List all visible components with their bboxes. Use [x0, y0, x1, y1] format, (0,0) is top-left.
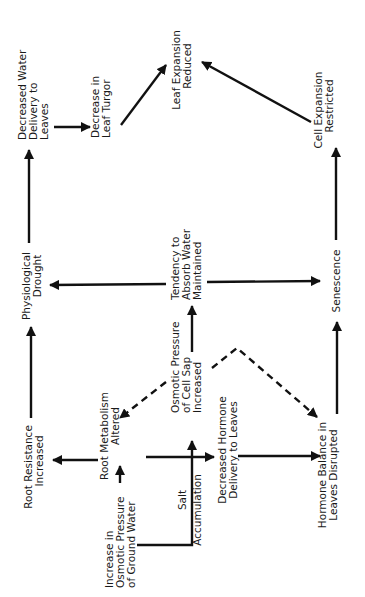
node-leaf-expansion-reduced: Leaf Expansion Reduced [170, 30, 193, 110]
node-osmotic-pressure-cell-sap: Osmotic Pressure of Cell Sap Increased [169, 322, 203, 413]
node-root-resistance-increased: Root Resistance Increased [22, 425, 45, 509]
svg-text:Delivery to Leaves: Delivery to Leaves [227, 401, 239, 499]
edge-tendency-to-drought [50, 284, 166, 285]
node-senescence: Senescence [330, 250, 342, 313]
svg-text:Senescence: Senescence [330, 250, 342, 313]
edge-turgor-to-leaf-expansion [121, 65, 166, 125]
svg-text:Reduced: Reduced [181, 43, 193, 89]
svg-text:Salt: Salt [176, 490, 188, 510]
node-hormone-balance-disrupted: Hormone Balance in Leaves Disrupted [316, 422, 339, 528]
node-decrease-leaf-turgor: Decrease in Leaf Turgor [89, 76, 112, 138]
node-decreased-water-delivery: Decreased Water Delivery to Leaves [16, 49, 50, 140]
svg-text:Restricted: Restricted [323, 79, 335, 132]
node-physiological-drought: Physiological Drought [20, 252, 43, 320]
edge-cell-expansion-to-leaf-expansion [202, 62, 311, 122]
edge-tendency-to-senescence [207, 281, 320, 282]
svg-text:Leaves: Leaves [38, 103, 50, 140]
svg-text:Drought: Drought [31, 255, 43, 298]
edge-cell-sap-to-root-metabolism-dashed [120, 382, 166, 418]
svg-text:of Ground Water: of Ground Water [125, 501, 137, 588]
svg-text:Leaf Turgor: Leaf Turgor [100, 79, 112, 138]
node-decreased-hormone-delivery: Decreased Hormone Delivery to Leaves [216, 396, 239, 503]
svg-text:Increased: Increased [191, 362, 203, 413]
salinity-effects-flow-diagram: Decreased Water Delivery to Leaves Decre… [0, 0, 365, 597]
node-cell-expansion-restricted: Cell Expansion Restricted [312, 71, 335, 148]
svg-text:Maintained: Maintained [191, 242, 203, 300]
node-tendency-absorb-water: Tendency to Absorb Water Maintained [169, 228, 203, 301]
svg-text:Leaves Disrupted: Leaves Disrupted [327, 429, 339, 520]
node-root-metabolism-altered: Root Metabolism Altered [98, 392, 121, 480]
node-increase-osmotic-ground-water: Increase in Osmotic Pressure of Ground W… [103, 497, 137, 588]
svg-text:Increased: Increased [33, 435, 45, 486]
svg-text:Altered: Altered [109, 407, 121, 445]
edge-label-salt-accumulation: Salt Accumulation [176, 474, 203, 546]
